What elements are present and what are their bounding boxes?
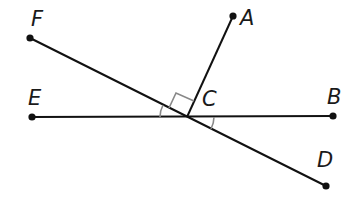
line-EB: [32, 116, 333, 117]
right-angle-mark: [169, 93, 194, 108]
label-F: F: [31, 7, 44, 31]
angle-arc-FCE: [160, 105, 163, 117]
label-D: D: [317, 148, 333, 172]
label-C: C: [202, 87, 217, 111]
point-A: [229, 12, 236, 19]
geometry-diagram: F A E C B D: [0, 0, 352, 208]
label-A: A: [238, 6, 254, 30]
point-E: [28, 113, 35, 120]
point-B: [329, 112, 336, 119]
point-D: [322, 182, 329, 189]
line-FD: [30, 38, 326, 186]
angle-arc-BCD: [211, 117, 214, 129]
label-B: B: [327, 85, 341, 109]
label-E: E: [28, 86, 42, 110]
point-F: [26, 34, 33, 41]
